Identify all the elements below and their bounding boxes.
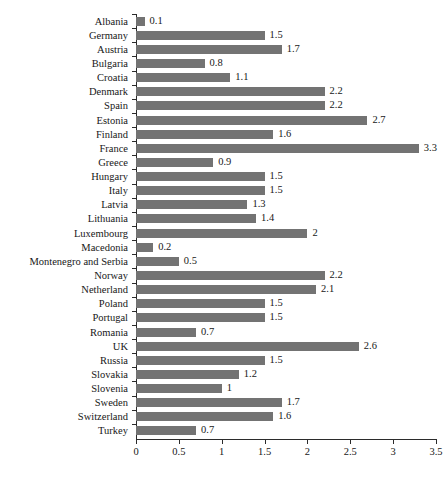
bar	[136, 59, 205, 68]
y-axis-tick	[132, 297, 136, 298]
bar-value-label: 0.5	[184, 255, 197, 267]
y-axis-tick	[132, 212, 136, 213]
x-axis-tick-label: 1.5	[245, 446, 285, 458]
y-axis-tick	[132, 353, 136, 354]
x-axis-tick-label: 0	[116, 446, 156, 458]
x-axis-tick	[393, 440, 394, 444]
bar-row: 1.1	[136, 73, 436, 82]
bar-row: 1.5	[136, 313, 436, 322]
bar-row: 1.7	[136, 398, 436, 407]
y-axis-tick	[132, 85, 136, 86]
bar-row: 3.3	[136, 144, 436, 153]
x-axis-spine	[136, 439, 437, 440]
bar-row: 0.1	[136, 17, 436, 26]
category-label: Montenegro and Serbia	[0, 256, 128, 267]
bar	[136, 73, 230, 82]
y-axis-tick	[132, 424, 136, 425]
bar-row: 1.4	[136, 214, 436, 223]
y-axis-tick	[132, 155, 136, 156]
bar	[136, 299, 265, 308]
bar	[136, 200, 247, 209]
bar-value-label: 1.6	[278, 128, 291, 140]
x-axis-tick-label: 3.5	[416, 446, 444, 458]
category-label: Sweden	[0, 397, 128, 408]
y-axis-tick	[132, 113, 136, 114]
y-axis-tick	[132, 283, 136, 284]
bar-row: 2.2	[136, 271, 436, 280]
bar-value-label: 1.7	[287, 43, 300, 55]
bar-value-label: 1.3	[252, 198, 265, 210]
bar	[136, 342, 359, 351]
y-axis-tick	[132, 184, 136, 185]
bar-row: 1.5	[136, 31, 436, 40]
bar	[136, 45, 282, 54]
y-axis-tick	[132, 14, 136, 15]
bar-row: 1	[136, 384, 436, 393]
bar	[136, 285, 316, 294]
bar-row: 1.7	[136, 45, 436, 54]
bar-row: 1.3	[136, 200, 436, 209]
bar-row: 2.2	[136, 87, 436, 96]
y-axis-tick	[132, 410, 136, 411]
figure-caption	[4, 468, 434, 478]
bar-value-label: 1.4	[261, 212, 274, 224]
bar-value-label: 0.8	[210, 57, 223, 69]
category-label: Austria	[0, 44, 128, 55]
bar-row: 1.5	[136, 186, 436, 195]
y-axis-tick	[132, 141, 136, 142]
y-axis-tick	[132, 198, 136, 199]
category-label: Luxembourg	[0, 228, 128, 239]
category-label: Portugal	[0, 312, 128, 323]
category-label: Turkey	[0, 425, 128, 436]
x-axis-tick	[265, 440, 266, 444]
y-axis-tick	[132, 396, 136, 397]
y-axis-tick	[132, 325, 136, 326]
bar-value-label: 2.7	[372, 114, 385, 126]
x-axis-tick	[222, 440, 223, 444]
bar	[136, 243, 153, 252]
bar-row: 0.8	[136, 59, 436, 68]
y-axis-tick	[132, 367, 136, 368]
y-axis-tick	[132, 268, 136, 269]
y-axis-tick	[132, 56, 136, 57]
bar-row: 2.7	[136, 116, 436, 125]
x-axis-tick-label: 0.5	[159, 446, 199, 458]
y-axis-tick	[132, 311, 136, 312]
x-axis-tick-label: 1	[202, 446, 242, 458]
bar-row: 2.2	[136, 101, 436, 110]
category-label: Switzerland	[0, 411, 128, 422]
bar-value-label: 1.5	[270, 311, 283, 323]
bar-value-label: 0.7	[201, 326, 214, 338]
bar	[136, 144, 419, 153]
bar-value-label: 1.5	[270, 297, 283, 309]
bar	[136, 328, 196, 337]
bar-value-label: 3.3	[424, 142, 437, 154]
bar	[136, 172, 265, 181]
bar-row: 0.5	[136, 257, 436, 266]
bar	[136, 370, 239, 379]
bar	[136, 412, 273, 421]
category-label: Russia	[0, 355, 128, 366]
x-axis-tick-label: 2.5	[330, 446, 370, 458]
category-label: Denmark	[0, 86, 128, 97]
y-axis-tick	[132, 339, 136, 340]
category-label: Finland	[0, 129, 128, 140]
bar	[136, 313, 265, 322]
bar	[136, 229, 307, 238]
category-label: Italy	[0, 185, 128, 196]
y-axis-tick	[132, 99, 136, 100]
category-label: Slovakia	[0, 369, 128, 380]
bar-value-label: 0.7	[201, 424, 214, 436]
category-label: Latvia	[0, 199, 128, 210]
y-axis-tick	[132, 71, 136, 72]
bar	[136, 426, 196, 435]
bar-row: 1.5	[136, 356, 436, 365]
bar-value-label: 0.1	[150, 15, 163, 27]
category-label: Bulgaria	[0, 58, 128, 69]
x-axis-tick	[436, 440, 437, 444]
bar-value-label: 1.5	[270, 170, 283, 182]
bar-value-label: 1.6	[278, 410, 291, 422]
bar	[136, 384, 222, 393]
plot-area: 0.11.51.70.81.12.22.22.71.63.30.91.51.51…	[136, 14, 436, 438]
bar-value-label: 1.2	[244, 368, 257, 380]
